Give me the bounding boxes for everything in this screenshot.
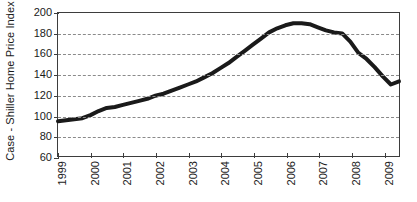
y-axis-tick-label: 160	[26, 48, 52, 59]
y-axis-tick-mark	[54, 13, 59, 14]
y-axis-tick-labels: 2001801601401201008060	[22, 0, 52, 202]
x-axis-tick-label-text: 2008	[351, 161, 362, 185]
y-axis-tick-label: 60	[26, 152, 52, 163]
x-axis-tick-label: 2008	[344, 161, 358, 201]
x-axis-tick-label: 2006	[279, 161, 293, 201]
y-axis-tick-label: 200	[26, 7, 52, 18]
gridline-horizontal	[58, 137, 399, 138]
x-axis-tick-label: 2000	[83, 161, 97, 201]
x-axis-tick-label: 2004	[213, 161, 227, 201]
x-axis-tick-labels: 1999200020012002200320042005200620072008…	[57, 157, 400, 202]
series-line-case-shiller-home-price-index	[58, 23, 399, 121]
y-axis-title: Case - Shiller Home Price Index	[0, 0, 20, 162]
x-axis-tick-label-text: 2002	[155, 161, 166, 185]
x-axis-tick-label-text: 2000	[90, 161, 101, 185]
x-axis-tick-label: 1999	[50, 161, 64, 201]
gridline-horizontal	[58, 34, 399, 35]
y-axis-tick-label: 180	[26, 27, 52, 38]
x-axis-tick-label-text: 2005	[253, 161, 264, 185]
x-axis-tick-label-text: 2003	[188, 161, 199, 185]
y-axis-tick-label: 140	[26, 69, 52, 80]
x-axis-tick-label-text: 1999	[57, 161, 68, 185]
x-axis-tick-label: 2005	[246, 161, 260, 201]
y-axis-title-text: Case - Shiller Home Price Index	[4, 1, 16, 161]
plot-area	[57, 12, 400, 157]
gridline-horizontal	[58, 96, 399, 97]
gridline-horizontal	[58, 117, 399, 118]
chart-figure: Case - Shiller Home Price Index 20018016…	[0, 0, 417, 202]
gridline-horizontal	[58, 54, 399, 55]
x-axis-tick-label-text: 2004	[220, 161, 231, 185]
x-axis-tick-label: 2009	[377, 161, 391, 201]
x-axis-tick-label-text: 2007	[318, 161, 329, 185]
y-axis-tick-label: 80	[26, 131, 52, 142]
y-axis-tick-label: 100	[26, 110, 52, 121]
x-axis-tick-label: 2007	[311, 161, 325, 201]
x-axis-tick-label: 2002	[148, 161, 162, 201]
x-axis-tick-label-text: 2001	[122, 161, 133, 185]
x-axis-tick-label: 2001	[115, 161, 129, 201]
y-axis-tick-label: 120	[26, 89, 52, 100]
x-axis-tick-label-text: 2009	[384, 161, 395, 185]
x-axis-tick-label: 2003	[181, 161, 195, 201]
gridline-horizontal	[58, 75, 399, 76]
x-axis-tick-label-text: 2006	[286, 161, 297, 185]
